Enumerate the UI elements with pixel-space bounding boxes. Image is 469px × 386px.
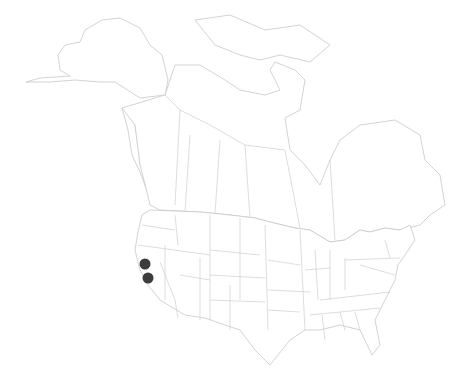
occurrence-marker[interactable] [140, 259, 151, 270]
alaska [26, 18, 168, 98]
arctic-islands [195, 15, 330, 62]
occurrence-marker[interactable] [143, 273, 154, 284]
north-america-map [0, 0, 469, 386]
landmass [26, 15, 445, 365]
